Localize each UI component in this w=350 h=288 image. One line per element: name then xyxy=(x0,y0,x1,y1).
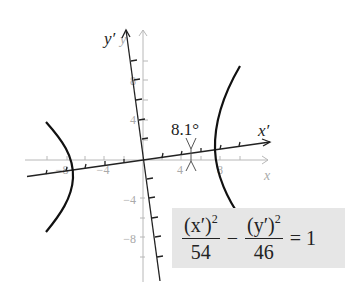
svg-text:y: y xyxy=(118,32,127,47)
angle-label: 8.1° xyxy=(171,120,199,139)
svg-text:−4: −4 xyxy=(123,193,136,207)
rhs-value: 1 xyxy=(306,227,316,250)
numerator-y: (y′) xyxy=(247,214,275,236)
hyperbola-left-branch xyxy=(46,122,73,232)
svg-text:4: 4 xyxy=(177,163,183,177)
svg-text:−8: −8 xyxy=(123,232,136,246)
minus-operator: − xyxy=(227,227,238,250)
denominator-y: 46 xyxy=(254,239,274,263)
denominator-x: 54 xyxy=(191,239,211,263)
y-prime-label: y′ xyxy=(102,29,116,48)
equals-sign: = xyxy=(290,227,301,250)
numerator-x: (x′) xyxy=(184,214,212,236)
fraction-x: (x′)2 54 xyxy=(182,214,220,263)
svg-text:x: x xyxy=(263,168,271,183)
angle-marker xyxy=(186,138,196,171)
fraction-y: (y′)2 46 xyxy=(245,214,283,263)
equation-box: (x′)2 54 − (y′)2 46 = 1 xyxy=(172,208,345,268)
hyperbola-right-branch xyxy=(215,66,241,218)
x-prime-label: x′ xyxy=(257,121,270,140)
svg-text:4: 4 xyxy=(130,113,136,127)
